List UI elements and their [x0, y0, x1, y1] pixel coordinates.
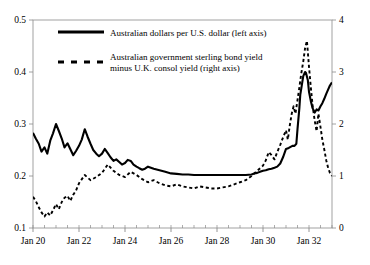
right-axis-tick-label: 0: [339, 223, 344, 233]
right-axis-tick-label: 4: [339, 15, 344, 25]
left-axis: 0.10.20.30.40.5: [14, 15, 33, 233]
chart-container: 0.10.20.30.40.5 01234 Jan 20Jan 22Jan 24…: [0, 0, 370, 265]
legend-label-exchange-rate: Australian dollars per U.S. dollar (left…: [110, 28, 266, 38]
left-axis-tick-label: 0.4: [14, 67, 26, 77]
left-axis-tick-label: 0.3: [14, 119, 26, 129]
left-axis-tick-label: 0.1: [14, 223, 26, 233]
x-axis-tick-label: Jan 20: [21, 236, 46, 246]
x-axis-tick-label: Jan 22: [67, 236, 92, 246]
right-axis-tick-label: 3: [339, 67, 344, 77]
x-axis-tick-label: Jan 28: [205, 236, 230, 246]
left-axis-tick-label: 0.2: [14, 171, 26, 181]
x-axis-tick-label: Jan 26: [159, 236, 184, 246]
x-axis-tick-label: Jan 32: [297, 236, 322, 246]
right-axis: 01234: [332, 15, 344, 233]
right-axis-tick-label: 1: [339, 171, 344, 181]
right-axis-tick-label: 2: [339, 119, 344, 129]
left-axis-tick-label: 0.5: [14, 15, 26, 25]
x-axis-tick-label: Jan 24: [113, 236, 138, 246]
legend-label-yield-spread-line1: Australian government sterling bond yiel…: [110, 52, 263, 62]
legend-label-yield-spread-line2: minus U.K. consol yield (right axis): [110, 63, 240, 73]
x-axis-tick-label: Jan 30: [251, 236, 276, 246]
dual-axis-line-chart: 0.10.20.30.40.5 01234 Jan 20Jan 22Jan 24…: [0, 0, 370, 265]
